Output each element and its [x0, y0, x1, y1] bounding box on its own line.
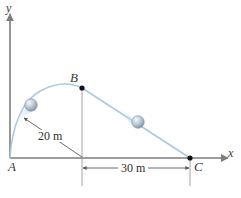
- ball-on-arc-body: [25, 99, 37, 111]
- point-label-b: B: [70, 71, 78, 84]
- ball-on-line: [132, 116, 144, 128]
- trajectory-group: [10, 84, 190, 158]
- point-marker-b: [79, 85, 84, 90]
- x-axis-label: x: [228, 147, 233, 159]
- ball-on-line-body: [132, 116, 144, 128]
- ball-on-arc: [25, 99, 37, 111]
- projectile-diagram-figure: A B C y x 20 m 30 m: [0, 0, 241, 198]
- point-marker-c: [187, 155, 192, 160]
- dimension-label-30m: 30 m: [118, 162, 148, 174]
- trajectory-arc-ab: [10, 84, 82, 158]
- point-label-a: A: [8, 160, 16, 173]
- point-label-c: C: [194, 160, 203, 173]
- y-axis-label: y: [6, 2, 11, 14]
- dimension-label-20m: 20 m: [36, 130, 64, 142]
